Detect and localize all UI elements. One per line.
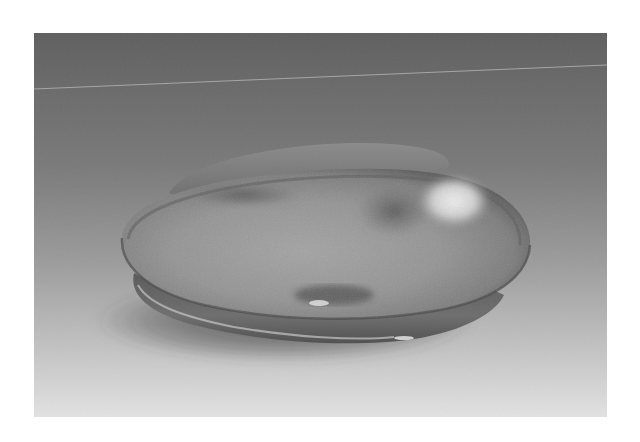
photo-canvas bbox=[34, 33, 607, 417]
photograph: Grayscale photograph of an ancient shall… bbox=[34, 33, 607, 417]
backdrop-texture bbox=[34, 33, 607, 417]
